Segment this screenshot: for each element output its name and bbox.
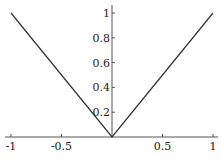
- y-tick-label: 0.4: [93, 81, 111, 94]
- y-tick-label: 0.8: [93, 32, 111, 45]
- x-tick-label: 0.5: [154, 140, 172, 153]
- y-tick-label: 0.6: [93, 57, 111, 70]
- plot-area: -1-0.50.510.20.40.60.81: [0, 0, 221, 159]
- x-tick-label: -1: [6, 140, 17, 153]
- x-tick-label: -0.5: [51, 140, 72, 153]
- chart: -1-0.50.510.20.40.60.81: [0, 0, 221, 159]
- x-tick-label: 1: [210, 140, 217, 153]
- y-tick-label: 1: [103, 7, 110, 20]
- y-tick-label: 0.2: [93, 106, 111, 119]
